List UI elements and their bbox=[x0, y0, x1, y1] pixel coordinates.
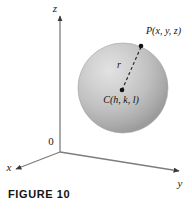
radius-label: r bbox=[117, 59, 121, 70]
surface-point-marker bbox=[139, 44, 144, 49]
x-axis-line bbox=[16, 152, 60, 169]
x-axis-label: x bbox=[6, 161, 12, 173]
center-point-marker bbox=[120, 88, 125, 93]
sphere-diagram: z y x 0 P(x, y, z) C(h, k, l) r bbox=[0, 0, 192, 210]
center-point-label: C(h, k, l) bbox=[103, 94, 139, 106]
figure-container: z y x 0 P(x, y, z) C(h, k, l) r FIGURE 1… bbox=[0, 0, 192, 210]
y-axis-label: y bbox=[177, 177, 183, 189]
y-axis-line bbox=[60, 152, 179, 171]
figure-caption: FIGURE 10 bbox=[8, 188, 70, 200]
surface-point-label: P(x, y, z) bbox=[145, 25, 182, 37]
origin-label: 0 bbox=[48, 135, 54, 147]
z-axis-label: z bbox=[52, 2, 58, 14]
